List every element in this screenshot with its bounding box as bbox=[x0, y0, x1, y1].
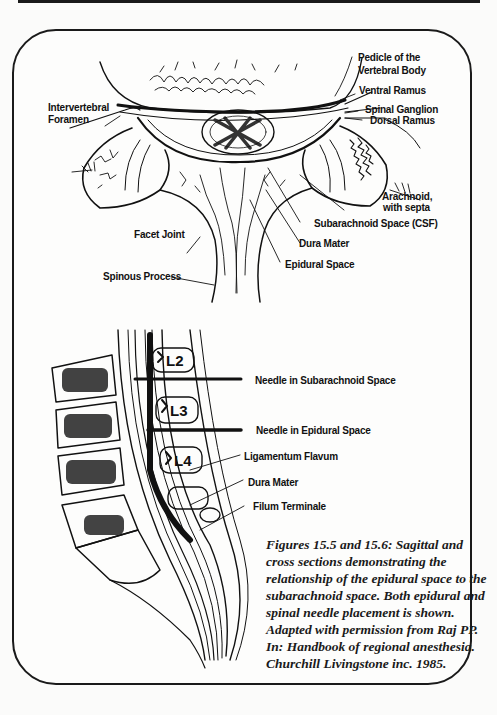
label-ligamentum-flavum: Ligamentum Flavum bbox=[244, 450, 338, 464]
label-ventral-ramus: Ventral Ramus bbox=[359, 84, 426, 98]
label-dorsal-ramus: Dorsal Ramus bbox=[370, 114, 435, 128]
label-dura-mater-sagittal: Dura Mater bbox=[248, 476, 298, 490]
label-pedicle: Pedicle of the bbox=[358, 51, 420, 65]
figure-caption: Figures 15.5 and 15.6: Sagittal and cros… bbox=[266, 536, 486, 672]
caption-line: Churchill Livingstone inc. 1985. bbox=[266, 655, 486, 672]
vertebra-label-l2: L2 bbox=[166, 352, 184, 369]
label-facet-joint: Facet Joint bbox=[134, 228, 185, 242]
label-spinous-process: Spinous Process bbox=[103, 270, 181, 284]
caption-line: subarachnoid space. Both epidural and bbox=[266, 587, 486, 604]
caption-line: spinal needle placement is shown. bbox=[266, 604, 486, 621]
label-foramen: Foramen bbox=[48, 113, 89, 127]
label-needle-epidural: Needle in Epidural Space bbox=[256, 424, 371, 438]
caption-line: cross sections demonstrating the bbox=[266, 553, 486, 570]
label-needle-subarachnoid: Needle in Subarachnoid Space bbox=[255, 374, 396, 388]
label-pedicle-line2: Vertebral Body bbox=[358, 64, 426, 78]
label-arachnoid-line2: with septa bbox=[383, 201, 430, 215]
sagittal-drawing bbox=[52, 330, 248, 668]
label-epidural-space: Epidural Space bbox=[285, 258, 354, 272]
label-dura-mater-cross: Dura Mater bbox=[299, 237, 349, 251]
caption-line: Adapted with permission from Raj PP. bbox=[266, 621, 486, 638]
caption-line: In: Handbook of regional anesthesia. bbox=[266, 638, 486, 655]
label-filum-terminale: Filum Terminale bbox=[253, 500, 326, 514]
vertebra-label-l4: L4 bbox=[174, 452, 192, 469]
caption-line: Figures 15.5 and 15.6: Sagittal and bbox=[266, 536, 486, 553]
caption-line: relationship of the epidural space to th… bbox=[266, 570, 486, 587]
label-subarachnoid-space: Subarachnoid Space (CSF) bbox=[314, 217, 438, 231]
vertebra-label-l3: L3 bbox=[170, 402, 188, 419]
